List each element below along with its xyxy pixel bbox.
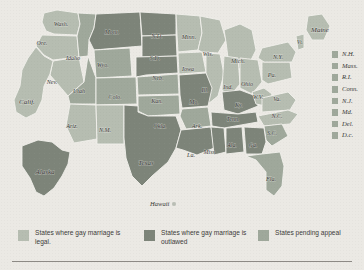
legend-label-outlawed: States where gay marriage is outlawed: [161, 229, 257, 246]
state-label-vt: Vt.: [297, 39, 303, 45]
us-map-svg[interactable]: Wash.Ore.IdahoMont.N.D.S.D.Minn.Wyo.Nev.…: [0, 0, 364, 226]
state-label-ariz: Ariz.: [65, 123, 78, 129]
legend-label-pending: States pending appeal: [275, 229, 364, 238]
small-state-label: Del.: [342, 121, 353, 128]
small-state-row[interactable]: Del.: [332, 120, 358, 129]
legend-item-outlawed: States where gay marriage is outlawed: [144, 229, 257, 246]
state-label-maine: Maine: [310, 26, 329, 34]
state-label-wyo: Wyo.: [97, 62, 109, 68]
state-label-sd: S.D.: [150, 55, 161, 61]
footer-divider: [12, 261, 352, 262]
state-label-texas: Texas: [138, 159, 154, 167]
state-label-ny: N.Y.: [272, 54, 283, 60]
small-state-swatch: [332, 63, 339, 70]
hawaii-label-text: Hawaii: [150, 200, 169, 207]
state-label-ga: Ga.: [249, 142, 258, 148]
state-label-nd: N.D.: [150, 33, 163, 39]
state-label-utah: Utah: [73, 88, 85, 94]
state-shape-texas[interactable]: [124, 105, 181, 186]
small-state-row[interactable]: N.J.: [332, 96, 358, 105]
legend-item-legal: States where gay marriage is legal.: [18, 229, 131, 246]
state-shapes-group: [14, 10, 330, 196]
small-state-swatch: [332, 109, 339, 116]
state-label-mo: Mo.: [188, 99, 199, 105]
legend-swatch-pending: [258, 230, 269, 241]
legend-item-pending: States pending appeal: [258, 229, 364, 241]
state-label-ore: Ore.: [37, 40, 48, 46]
state-label-ill: Ill.: [201, 87, 209, 93]
small-state-swatch: [332, 132, 339, 139]
small-state-label: Md.: [342, 109, 352, 116]
state-label-mont: Mont.: [104, 29, 119, 35]
state-shape-nd[interactable]: [140, 12, 176, 36]
small-state-row[interactable]: Md.: [332, 108, 358, 117]
state-label-idaho: Idaho: [65, 55, 80, 61]
hawaii-label: Hawaii: [150, 200, 176, 207]
state-label-nm: N.M.: [98, 127, 111, 133]
small-state-label: Mass.: [342, 63, 358, 70]
state-shape-wis[interactable]: [198, 16, 226, 53]
small-states-list: N.H.Mass.R.I.Conn.N.J.Md.Del.D.c.: [332, 50, 358, 140]
state-label-kan: Kan.: [150, 98, 163, 104]
state-label-tenn: Tenn.: [226, 116, 239, 122]
state-shape-fla[interactable]: [246, 152, 284, 196]
state-label-wash: Wash.: [54, 21, 69, 27]
state-label-neb: Neb.: [151, 75, 163, 81]
state-label-ohio: Ohio: [241, 81, 253, 87]
state-label-nc: N.C.: [270, 113, 282, 119]
state-label-okla: Okla.: [153, 123, 166, 129]
small-state-swatch: [332, 121, 339, 128]
state-label-ky: Ky.: [234, 102, 243, 108]
small-state-row[interactable]: Mass.: [332, 62, 358, 71]
state-label-nev: Nev.: [46, 79, 58, 85]
state-label-sc: S.C.: [267, 130, 277, 136]
state-shape-nm[interactable]: [96, 105, 124, 144]
state-shape-colo[interactable]: [96, 77, 137, 105]
state-label-va: Va.: [273, 96, 281, 102]
small-state-swatch: [332, 74, 339, 81]
state-label-wis: Wis.: [203, 51, 213, 57]
small-state-label: N.J.: [342, 98, 353, 105]
state-label-calif: Calif.: [19, 98, 35, 106]
state-label-ind: Ind.: [222, 84, 233, 90]
small-state-swatch: [332, 86, 339, 93]
state-label-colo: Colo.: [108, 94, 121, 100]
legend-swatch-legal: [18, 230, 29, 241]
map-infographic: Wash.Ore.IdahoMont.N.D.S.D.Minn.Wyo.Nev.…: [0, 0, 364, 270]
state-label-la: La.: [186, 152, 195, 158]
state-label-minn: Minn.: [181, 34, 196, 40]
state-shape-minn[interactable]: [176, 14, 202, 52]
legend-label-legal: States where gay marriage is legal.: [35, 229, 131, 246]
state-label-iowa: Iowa: [181, 66, 194, 72]
state-label-miss: Miss.: [202, 149, 216, 155]
state-shape-ala[interactable]: [226, 127, 244, 154]
small-state-swatch: [332, 51, 339, 58]
state-label-alaska: Alaska: [34, 168, 55, 176]
state-label-ark: Ark.: [191, 123, 202, 129]
small-state-label: N.H.: [342, 51, 354, 58]
small-state-row[interactable]: N.H.: [332, 50, 358, 59]
small-state-label: D.c.: [342, 132, 353, 139]
state-label-mich: Mich.: [230, 58, 245, 64]
small-state-row[interactable]: D.c.: [332, 131, 358, 140]
hawaii-marker-icon: [172, 202, 176, 206]
small-state-swatch: [332, 98, 339, 105]
small-state-label: R.I.: [342, 74, 352, 81]
small-state-row[interactable]: Conn.: [332, 85, 358, 94]
state-label-pa: Pa.: [267, 72, 276, 78]
state-label-wv: W.V.: [253, 94, 264, 100]
legend-swatch-outlawed: [144, 230, 155, 241]
small-state-label: Conn.: [342, 86, 358, 93]
legend: States where gay marriage is legal. Stat…: [0, 226, 364, 256]
state-shape-pa[interactable]: [262, 62, 292, 84]
state-shape-ga[interactable]: [244, 127, 266, 154]
small-state-row[interactable]: R.I.: [332, 73, 358, 82]
us-map-container[interactable]: Wash.Ore.IdahoMont.N.D.S.D.Minn.Wyo.Nev.…: [0, 0, 364, 226]
state-label-fla: Fla.: [265, 176, 276, 182]
state-label-ala: Ala.: [226, 142, 237, 148]
